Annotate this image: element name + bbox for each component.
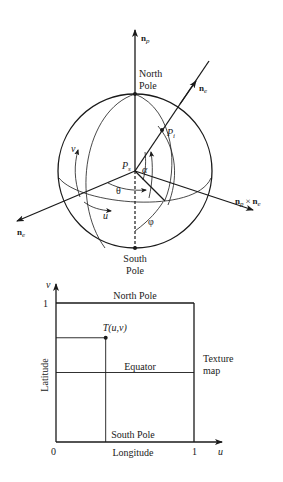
phi-label: φ [148, 216, 154, 227]
nc-label: ne [199, 83, 207, 95]
alpha-label: α [142, 164, 148, 175]
pi-label: Pi [166, 127, 175, 140]
t-point [104, 336, 108, 340]
north-pole-point [133, 92, 137, 96]
diagram-canvas: np North Pole ne Pi v Ps α θ u φ ne np×n… [0, 0, 283, 482]
latitude-label: Latitude [39, 358, 50, 392]
texture-label-1: Texture [203, 353, 234, 364]
ps-label: Ps [121, 160, 131, 173]
theta-label: θ [116, 185, 121, 196]
meridian-right [135, 94, 172, 200]
south-pole-label-2: Pole [126, 265, 144, 276]
longitude-label: Longitude [112, 447, 154, 458]
north-pole-map-label: North Pole [113, 290, 157, 301]
u-axis-letter: u [218, 446, 223, 457]
north-pole-label-2: Pole [139, 80, 157, 91]
v-axis-letter: v [46, 279, 51, 290]
x-tick-0: 0 [51, 446, 56, 457]
pi-point [160, 128, 164, 132]
sphere-figure: np North Pole ne Pi v Ps α θ u φ ne np×n… [17, 30, 261, 276]
y-tick-1: 1 [43, 298, 48, 309]
texture-label-2: map [203, 365, 220, 376]
south-pole-point [133, 246, 137, 250]
south-pole-map-label: South Pole [111, 429, 155, 440]
ne-label: ne [17, 227, 25, 239]
south-pole-label-1: South [123, 253, 146, 264]
t-point-label: T(u,v) [103, 322, 128, 334]
np-label: np [141, 33, 150, 45]
texture-map: v 1 North Pole T(u,v) Equator Latitude T… [39, 279, 234, 458]
equator-map-label: Equator [124, 361, 156, 372]
v-label: v [71, 143, 76, 154]
theta-arc [108, 183, 146, 190]
np-cross-ne-label: np×ne [235, 196, 261, 208]
alpha-arc [149, 152, 152, 198]
nc-arrow [180, 81, 196, 104]
x-tick-1: 1 [192, 446, 197, 457]
u-label: u [103, 210, 108, 221]
north-pole-label-1: North [139, 68, 162, 79]
